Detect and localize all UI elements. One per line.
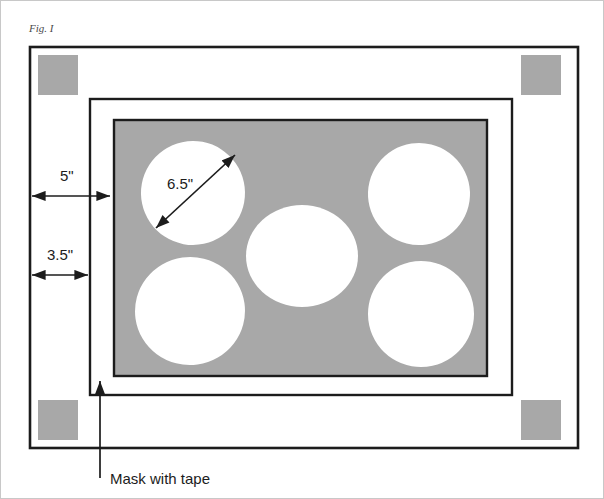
perforated-panel xyxy=(114,120,487,376)
inner-margin-label: 3.5" xyxy=(47,246,73,263)
corner-square-top-left xyxy=(38,55,78,95)
corner-square-top-right xyxy=(521,55,561,95)
hole-diameter-label: 6.5" xyxy=(167,175,193,192)
corner-square-bottom-right xyxy=(521,400,561,440)
outer-margin-label: 5" xyxy=(60,167,74,184)
mask-callout-label: Mask with tape xyxy=(110,470,210,487)
corner-square-bottom-left xyxy=(38,400,78,440)
panel-gray-fill xyxy=(114,120,487,376)
figure-caption: Fig. I xyxy=(28,22,55,34)
figure-diagram: Fig. I 6.5" 5" xyxy=(0,0,604,499)
diagram-canvas: Fig. I 6.5" 5" xyxy=(0,0,604,499)
